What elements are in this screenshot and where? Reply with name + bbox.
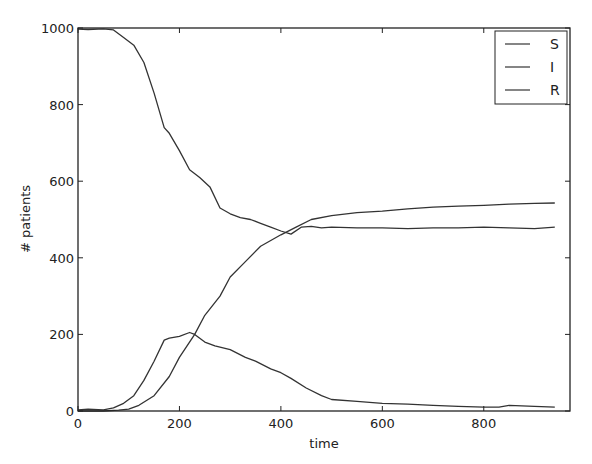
y-tick-label: 400	[49, 251, 74, 266]
y-axis-label: # patients	[18, 185, 33, 253]
series-line-S	[78, 29, 555, 234]
legend-label-R: R	[550, 82, 560, 98]
x-axis-label: time	[309, 436, 338, 451]
y-axis-ticks: 02004006008001000	[41, 21, 570, 419]
legend-label-S: S	[550, 36, 559, 52]
x-tick-label: 400	[268, 416, 293, 431]
x-tick-label: 600	[370, 416, 395, 431]
x-tick-label: 800	[471, 416, 496, 431]
legend: SIR	[495, 31, 567, 104]
sir-line-chart: 0200400600800 02004006008001000 time # p…	[0, 0, 592, 464]
x-tick-label: 200	[167, 416, 192, 431]
plot-lines	[78, 29, 555, 411]
series-line-R	[78, 203, 555, 411]
y-tick-label: 1000	[41, 21, 74, 36]
y-tick-label: 600	[49, 174, 74, 189]
x-axis-ticks: 0200400600800	[74, 28, 496, 431]
y-tick-label: 800	[49, 98, 74, 113]
legend-label-I: I	[550, 59, 554, 75]
y-tick-label: 0	[66, 404, 74, 419]
y-tick-label: 200	[49, 327, 74, 342]
x-tick-label: 0	[74, 416, 82, 431]
